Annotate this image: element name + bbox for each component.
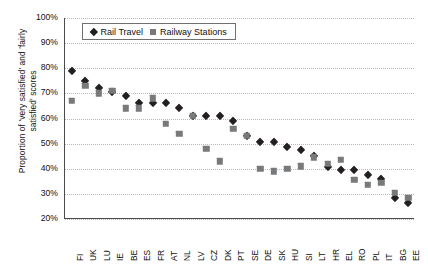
rail-travel-point bbox=[162, 99, 171, 108]
y-tick-label: 80% bbox=[18, 62, 58, 72]
square-marker-icon bbox=[150, 29, 156, 35]
railway-stations-point bbox=[405, 194, 411, 200]
x-tick-label: HU bbox=[290, 249, 300, 261]
gridline bbox=[65, 194, 414, 195]
railway-stations-point bbox=[365, 182, 371, 188]
gridline bbox=[65, 219, 414, 220]
railway-stations-point bbox=[217, 158, 223, 164]
x-tick-label: HR bbox=[331, 249, 341, 261]
gridline bbox=[65, 144, 414, 145]
railway-stations-point bbox=[203, 145, 209, 151]
railway-stations-point bbox=[69, 98, 75, 104]
railway-stations-point bbox=[190, 113, 196, 119]
x-tick-label: SI bbox=[304, 253, 314, 261]
gridline bbox=[65, 68, 414, 69]
x-tick-label: SE bbox=[250, 250, 260, 261]
railway-stations-point bbox=[136, 105, 142, 111]
y-tick-label: 60% bbox=[18, 113, 58, 123]
gridline bbox=[65, 169, 414, 170]
y-tick-label: 100% bbox=[18, 12, 58, 22]
railway-stations-point bbox=[284, 166, 290, 172]
y-tick-label: 70% bbox=[18, 87, 58, 97]
railway-stations-point bbox=[270, 168, 276, 174]
y-tick-label: 20% bbox=[18, 213, 58, 223]
gridline bbox=[65, 119, 414, 120]
gridline bbox=[65, 18, 414, 19]
gridline bbox=[65, 43, 414, 44]
x-tick-label: FI bbox=[75, 254, 85, 261]
railway-stations-point bbox=[149, 95, 155, 101]
railway-stations-point bbox=[257, 166, 263, 172]
x-tick-label: PL bbox=[371, 251, 381, 261]
railway-stations-point bbox=[338, 157, 344, 163]
x-tick-label: NL bbox=[182, 250, 192, 261]
railway-stations-point bbox=[230, 125, 236, 131]
x-tick-label: LU bbox=[102, 250, 112, 261]
railway-stations-point bbox=[351, 177, 357, 183]
diamond-marker-icon bbox=[90, 28, 98, 36]
x-tick-label: BE bbox=[129, 250, 139, 261]
rail-travel-point bbox=[175, 104, 184, 113]
x-tick-label: UK bbox=[88, 249, 98, 261]
x-tick-label: EE bbox=[411, 250, 421, 261]
x-tick-label: LV bbox=[196, 251, 206, 261]
x-tick-label: EL bbox=[344, 251, 354, 261]
y-tick-label: 40% bbox=[18, 163, 58, 173]
x-tick-label: DK bbox=[223, 249, 233, 261]
rail-satisfaction-chart: Proportion of 'very satisfied' and 'fair… bbox=[0, 0, 428, 269]
x-tick-label: ES bbox=[142, 250, 152, 261]
x-tick-label: PT bbox=[236, 250, 246, 261]
rail-travel-point bbox=[363, 171, 372, 180]
rail-travel-point bbox=[269, 138, 278, 147]
railway-stations-point bbox=[176, 130, 182, 136]
railway-stations-point bbox=[109, 88, 115, 94]
rail-travel-point bbox=[296, 146, 305, 155]
legend-item-rail-travel: Rail Travel bbox=[91, 27, 143, 37]
x-tick-label: LT bbox=[317, 252, 327, 261]
y-tick-label: 90% bbox=[18, 37, 58, 47]
x-tick-label: BG bbox=[398, 249, 408, 261]
gridline bbox=[65, 93, 414, 94]
x-tick-label: AT bbox=[169, 251, 179, 261]
rail-travel-point bbox=[350, 166, 359, 175]
x-tick-label: IE bbox=[115, 253, 125, 261]
railway-stations-point bbox=[392, 189, 398, 195]
y-tick-label: 30% bbox=[18, 188, 58, 198]
railway-stations-point bbox=[297, 163, 303, 169]
x-tick-label: DE bbox=[263, 249, 273, 261]
railway-stations-point bbox=[95, 90, 101, 96]
x-tick-label: CZ bbox=[209, 250, 219, 261]
railway-stations-point bbox=[324, 161, 330, 167]
railway-stations-point bbox=[163, 120, 169, 126]
railway-stations-point bbox=[311, 154, 317, 160]
legend-item-railway-stations: Railway Stations bbox=[150, 27, 227, 37]
x-tick-label: RO bbox=[357, 248, 367, 261]
rail-travel-point bbox=[256, 138, 265, 147]
y-tick-label: 50% bbox=[18, 138, 58, 148]
x-tick-label: SK bbox=[277, 250, 287, 261]
legend-label: Railway Stations bbox=[160, 27, 227, 37]
plot-area bbox=[64, 18, 414, 219]
railway-stations-point bbox=[378, 179, 384, 185]
rail-travel-point bbox=[337, 166, 346, 175]
railway-stations-point bbox=[122, 105, 128, 111]
railway-stations-point bbox=[82, 83, 88, 89]
railway-stations-point bbox=[244, 133, 250, 139]
x-tick-label: FR bbox=[156, 250, 166, 261]
legend-label: Rail Travel bbox=[101, 27, 144, 37]
chart-legend: Rail Travel Railway Stations bbox=[82, 23, 236, 40]
x-tick-label: IT bbox=[384, 254, 394, 261]
